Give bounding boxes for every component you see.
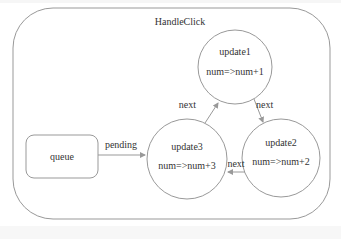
update2-expr: num=>num+2 [252,156,309,167]
update3-node [147,119,227,199]
next-label-2-to-3: next [227,158,244,169]
update3-name: update3 [171,141,203,152]
update1-expr: num=>num+1 [206,66,263,77]
pending-label: pending [105,139,137,150]
update3-expr: num=>num+3 [158,160,215,171]
next-label-3-to-1: next [179,99,196,110]
update1-name: update1 [219,46,251,57]
diagram-canvas: HandleClick queue pending update1 num=>n… [0,0,341,239]
queue-label: queue [50,151,74,162]
next-label-1-to-2: next [256,99,273,110]
next-arrow-3-to-1 [205,103,218,123]
update2-name: update2 [265,137,297,148]
container-label: HandleClick [155,16,206,27]
